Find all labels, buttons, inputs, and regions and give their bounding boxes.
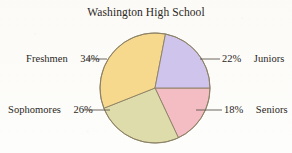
slice-label-seniors-name: Seniors: [256, 104, 288, 115]
slice-label-sophomores-name: Sophomores: [8, 104, 61, 115]
pie-chart-figure: Washington High School Freshmen 34% Soph…: [0, 0, 292, 153]
slice-label-juniors-name: Juniors: [254, 53, 285, 64]
slice-label-freshmen: Freshmen 34%: [26, 53, 100, 64]
slice-label-juniors-percent: 22%: [222, 53, 241, 64]
slice-label-freshmen-name: Freshmen: [26, 53, 68, 64]
slice-label-freshmen-percent: 34%: [80, 53, 99, 64]
slice-label-sophomores: Sophomores 26%: [8, 104, 93, 115]
slice-label-juniors: 22% Juniors: [222, 53, 284, 64]
slice-label-seniors: 18% Seniors: [224, 104, 288, 115]
slice-label-seniors-percent: 18%: [224, 104, 243, 115]
slice-label-sophomores-percent: 26%: [73, 104, 92, 115]
pie-chart-canvas: [0, 0, 292, 153]
